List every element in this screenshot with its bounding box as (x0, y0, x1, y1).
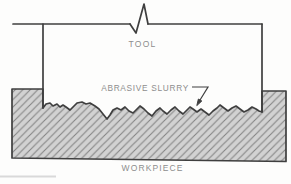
workpiece-label: WORKPIECE (122, 163, 184, 173)
abrasive-slurry-label: ABRASIVE SLURRY (101, 83, 189, 93)
tool-label: TOOL (128, 39, 156, 49)
usm-process-diagram: TOOL ABRASIVE SLURRY WORKPIECE (0, 0, 291, 184)
figure-page: TOOL ABRASIVE SLURRY WORKPIECE (0, 0, 291, 184)
